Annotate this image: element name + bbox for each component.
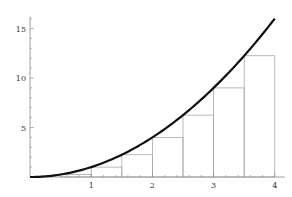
riemann-rect (214, 88, 245, 177)
x-tick-label: 4 (272, 181, 277, 190)
tick-labels: 123451015 (16, 25, 278, 191)
riemann-rect (152, 137, 183, 177)
y-tick-label: 5 (21, 124, 26, 133)
x-tick-label: 3 (211, 181, 216, 190)
riemann-rectangles (61, 56, 275, 177)
y-tick-label: 15 (16, 25, 26, 34)
axes (30, 17, 285, 177)
riemann-rect (183, 115, 214, 177)
riemann-rect (244, 56, 275, 177)
riemann-rect (122, 155, 153, 177)
riemann-rect (91, 167, 122, 177)
x-tick-label: 1 (89, 181, 94, 190)
y-tick-label: 10 (16, 74, 26, 83)
x-tick-label: 2 (150, 181, 155, 190)
riemann-sum-chart: 123451015 (0, 0, 292, 197)
